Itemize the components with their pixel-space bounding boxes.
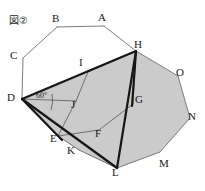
vertex-label-L: L [112, 167, 119, 178]
vertex-label-K: K [67, 145, 75, 156]
figure-canvas: 図② 60° A B C D E F G H I J K L M N O [0, 0, 205, 191]
edge-A-H [104, 26, 136, 51]
vertex-label-B: B [52, 13, 59, 24]
vertex-label-H: H [134, 39, 142, 50]
edge-C-D [22, 58, 23, 99]
angle-60-label: 60° [36, 92, 47, 100]
vertex-label-N: N [188, 111, 196, 122]
geometry-diagram [0, 0, 205, 191]
vertex-label-G: G [135, 94, 143, 105]
vertex-label-I: I [79, 57, 83, 68]
vertex-label-M: M [159, 158, 169, 169]
vertex-label-O: O [176, 67, 184, 78]
vertex-label-A: A [98, 12, 106, 23]
edge-A-B [57, 26, 104, 27]
vertex-label-J: J [71, 99, 75, 110]
edge-B-C [23, 27, 57, 58]
vertex-label-D: D [7, 92, 15, 103]
vertex-label-C: C [10, 50, 17, 61]
vertex-label-F: F [95, 128, 101, 139]
figure-tag: 図② [9, 12, 28, 27]
vertex-label-E: E [50, 133, 57, 144]
